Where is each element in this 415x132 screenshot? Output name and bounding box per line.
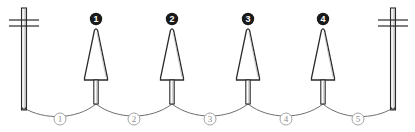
span-label-2: 2	[128, 113, 140, 125]
right-pole-body	[391, 8, 396, 110]
insulator-bell-3	[237, 29, 260, 80]
marker-2: 2	[166, 13, 178, 25]
marker-label-3: 3	[245, 14, 250, 24]
insulator-stem-4	[321, 80, 325, 104]
span-label-4: 4	[280, 113, 292, 125]
left-pole	[9, 8, 39, 110]
marker-label-1: 1	[93, 14, 98, 24]
span-number-3: 3	[208, 114, 213, 124]
span-number-labels: 12345	[54, 113, 364, 125]
left-pole-body	[22, 8, 27, 110]
insulator-stem-1	[94, 80, 98, 104]
span-label-3: 3	[204, 113, 216, 125]
line-diagram: 1234 12345	[0, 0, 415, 132]
span-label-1: 1	[54, 113, 66, 125]
marker-3: 3	[242, 13, 254, 25]
insulator-string-1	[85, 29, 108, 104]
insulator-bell-4	[312, 29, 335, 80]
insulator-number-markers: 1234	[90, 13, 329, 25]
span-number-1: 1	[58, 114, 63, 124]
marker-4: 4	[317, 13, 329, 25]
span-number-4: 4	[284, 114, 289, 124]
insulator-bell-2	[161, 29, 184, 80]
insulator-stem-3	[246, 80, 250, 104]
marker-1: 1	[90, 13, 102, 25]
insulator-strings	[85, 29, 335, 104]
diagram-canvas: 1234 12345	[0, 0, 415, 132]
marker-label-4: 4	[320, 14, 325, 24]
terminal-poles	[9, 8, 408, 110]
span-number-5: 5	[356, 114, 361, 124]
insulator-string-2	[161, 29, 184, 104]
span-label-5: 5	[352, 113, 364, 125]
marker-label-2: 2	[169, 14, 174, 24]
insulator-string-4	[312, 29, 335, 104]
insulator-stem-2	[170, 80, 174, 104]
span-number-2: 2	[132, 114, 137, 124]
insulator-string-3	[237, 29, 260, 104]
right-pole	[378, 8, 408, 110]
insulator-bell-1	[85, 29, 108, 80]
